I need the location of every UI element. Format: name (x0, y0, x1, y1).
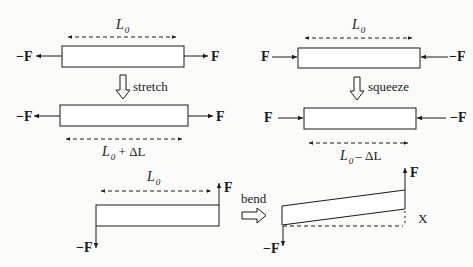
action-label-squeeze: squeeze (368, 79, 409, 94)
hollow-down-arrow-icon (350, 77, 364, 100)
length-label: L0 (115, 17, 130, 35)
left-force-label: −F (16, 109, 33, 124)
stretch-after-length-dimension: L0 + ΔL (66, 139, 182, 162)
rod-original (298, 48, 420, 68)
stretch-panel: L0 −F F stretch −F F L0 + ΔL (16, 17, 225, 162)
deformation-diagram: L0 −F F stretch −F F L0 + ΔL L0 F −F squ… (0, 0, 473, 267)
length-label: L0 + ΔL (101, 144, 145, 162)
left-force-label: F (261, 49, 270, 64)
length-label: L0 (146, 169, 161, 187)
length-label: L0– ΔL (339, 148, 381, 166)
squeeze-before-length-dimension: L0 (305, 17, 412, 38)
rod-squeezed (304, 108, 416, 129)
beam-bent (282, 190, 405, 225)
left-force-label: −F (16, 49, 33, 64)
left-force-label: F (264, 110, 273, 125)
right-force-label: −F (449, 49, 466, 64)
stretch-before-length-dimension: L0 (68, 17, 176, 37)
up-force-label: F (224, 180, 233, 195)
hollow-right-arrow-icon (242, 208, 266, 223)
right-force-label: −F (450, 110, 467, 125)
rod-original (62, 46, 184, 67)
rod-stretched (60, 105, 188, 126)
beam-original (96, 205, 219, 226)
action-label-bend: bend (241, 191, 267, 206)
action-label-stretch: stretch (133, 79, 168, 94)
right-force-label: F (216, 109, 225, 124)
hollow-down-arrow-icon (116, 75, 130, 99)
squeeze-panel: L0 F −F squeeze F −F L0– ΔL (261, 17, 467, 166)
up-force-label: F (410, 165, 419, 180)
bend-panel: L0 F −F bend X F −F (76, 165, 428, 256)
down-force-label: −F (76, 240, 93, 255)
down-force-label: −F (263, 241, 280, 256)
bend-before-length-dimension: L0 (101, 169, 211, 191)
length-label: L0 (351, 17, 366, 35)
right-force-label: F (211, 49, 220, 64)
deflection-label: X (418, 211, 428, 226)
squeeze-after-length-dimension: L0– ΔL (309, 143, 408, 166)
